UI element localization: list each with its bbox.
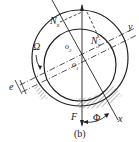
figure-caption: (b) bbox=[74, 129, 86, 139]
label-x-axis: x bbox=[118, 114, 122, 124]
label-f: F bbox=[71, 112, 77, 122]
label-o2: o2 bbox=[65, 43, 72, 53]
label-e: e bbox=[9, 82, 13, 92]
omega-arrow-head bbox=[38, 65, 42, 70]
label-ny: Ny bbox=[91, 36, 100, 48]
journal-circle bbox=[44, 29, 116, 101]
label-nx: Nx bbox=[50, 16, 59, 28]
bearing-outer-circle bbox=[32, 10, 128, 106]
label-y-axis: y bbox=[128, 22, 132, 32]
label-omega: Ω bbox=[33, 42, 40, 52]
load-arrow-down bbox=[80, 120, 84, 127]
hatched-support-bottom bbox=[76, 85, 122, 109]
load-arrow-up bbox=[80, 4, 84, 11]
label-o1: o1 bbox=[72, 61, 79, 71]
label-phi: Φ bbox=[93, 113, 100, 123]
